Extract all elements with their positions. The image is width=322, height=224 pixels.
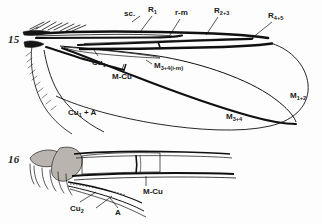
label-base-cu2: Cu2 <box>70 205 84 213</box>
label-sc: sc. <box>124 10 135 18</box>
label-r1-sub: 1 <box>154 9 157 15</box>
label-base-cu2-base: Cu <box>70 204 81 213</box>
wing-base-sclerite <box>24 41 44 47</box>
subcosta-vein <box>36 34 172 36</box>
label-r4-5: R4+5 <box>268 12 283 20</box>
label-r4-5-base: R <box>268 11 274 20</box>
leader-base-cu2 <box>80 192 96 202</box>
label-m-cu: M-Cu <box>112 73 132 81</box>
label-r2-3-base: R <box>214 6 220 15</box>
base-crossvein-m-cu-outline <box>140 155 141 174</box>
leader-r4-5 <box>252 22 272 38</box>
leader-m34im <box>146 60 152 64</box>
label-base-m-cu-base: M-Cu <box>143 187 163 196</box>
label-r2-3: R2+3 <box>214 7 229 15</box>
label-m1-2-sub: 1+2 <box>297 95 307 101</box>
vein-r1 <box>36 36 182 39</box>
leader-r1 <box>140 16 152 32</box>
wing-margin-outline <box>56 44 308 131</box>
label-r4-5-sub: 4+5 <box>274 15 284 21</box>
label-base-a-base: A <box>115 208 121 217</box>
label-cu1-base: Cu <box>92 58 103 67</box>
label-base-cu2-sub: 2 <box>81 208 84 214</box>
label-r2-3-sub: 2+3 <box>220 10 230 16</box>
label-r-m: r-m <box>175 9 188 17</box>
figure-number-16: 16 <box>8 153 19 165</box>
label-base-m-cu: M-Cu <box>143 188 163 196</box>
humeral-plate <box>23 31 50 36</box>
illustration-plate: 15 16 sc. R1 r-m R2+3 R4+5 Cu1 M-Cu M3+4… <box>0 0 322 224</box>
label-cu1: Cu1 <box>92 59 106 67</box>
label-cu1-plus-a-paren: + A <box>82 108 97 117</box>
label-r1-base: R <box>148 5 154 14</box>
label-sc-base: sc. <box>124 9 135 18</box>
figure-number-15: 15 <box>8 33 19 45</box>
label-r-m-base: r-m <box>175 8 188 17</box>
label-m3-4-i-m-paren: (i-m) <box>170 65 183 71</box>
vein-r2-3 <box>78 39 252 45</box>
label-m3-4-base: M <box>226 112 233 121</box>
label-r1: R1 <box>148 6 157 14</box>
anal-lobe-margin <box>31 46 72 134</box>
label-m3-4-i-m: M3+4(i-m) <box>154 62 183 70</box>
label-cu1-sub: 1 <box>103 62 106 68</box>
label-cu1-plus-a: Cu1 + A <box>68 109 96 117</box>
figure-16-wing-base-drawing <box>24 142 274 224</box>
label-cu1-plus-a-sub: 1 <box>79 112 82 118</box>
crossvein-m-cu <box>124 64 126 70</box>
label-m3-4-i-m-sub: 3+4 <box>161 65 171 71</box>
base-subcosta-vein <box>76 156 232 158</box>
label-m3-4-i-m-base: M <box>154 61 161 70</box>
label-m1-2: M1+2 <box>290 92 306 100</box>
label-cu1-plus-a-base: Cu <box>68 108 79 117</box>
label-m3-4: M3+4 <box>226 113 242 121</box>
base-crossvein-m-cu <box>136 155 137 174</box>
label-m3-4-sub: 3+4 <box>233 116 243 122</box>
base-radius-vein-shadow <box>74 177 236 180</box>
label-m1-2-base: M <box>290 91 297 100</box>
label-base-a: A <box>115 209 121 217</box>
label-m-cu-base: M-Cu <box>112 72 132 81</box>
